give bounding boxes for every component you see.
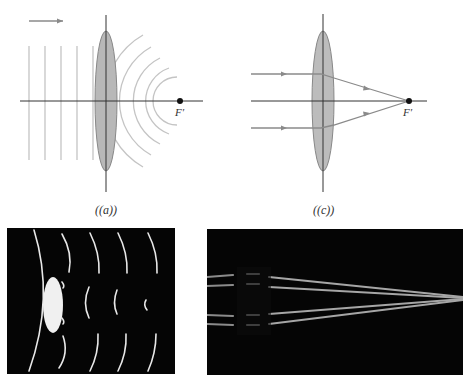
focal-label-c: F′ — [403, 106, 412, 118]
ray-photo-svg — [207, 229, 463, 375]
caption-a: ((a)) — [95, 203, 117, 218]
photo-wavefronts — [7, 228, 175, 374]
caption-c: ((c)) — [313, 203, 334, 218]
photo-ray-convergence — [207, 229, 463, 375]
panel-a-wavefront-diagram: F′ ((a)) — [0, 0, 235, 200]
propagation-arrow-icon — [29, 19, 63, 24]
wavefront-photo-svg — [7, 228, 175, 374]
focal-point — [177, 98, 183, 104]
panel-c-ray-diagram: F′ ((c)) — [235, 0, 469, 200]
focal-label-a: F′ — [175, 106, 184, 118]
focal-point — [406, 98, 412, 104]
ray-diagram-svg — [235, 0, 469, 200]
plane-wavefronts — [29, 46, 93, 160]
wavefront-diagram-svg — [0, 0, 235, 200]
